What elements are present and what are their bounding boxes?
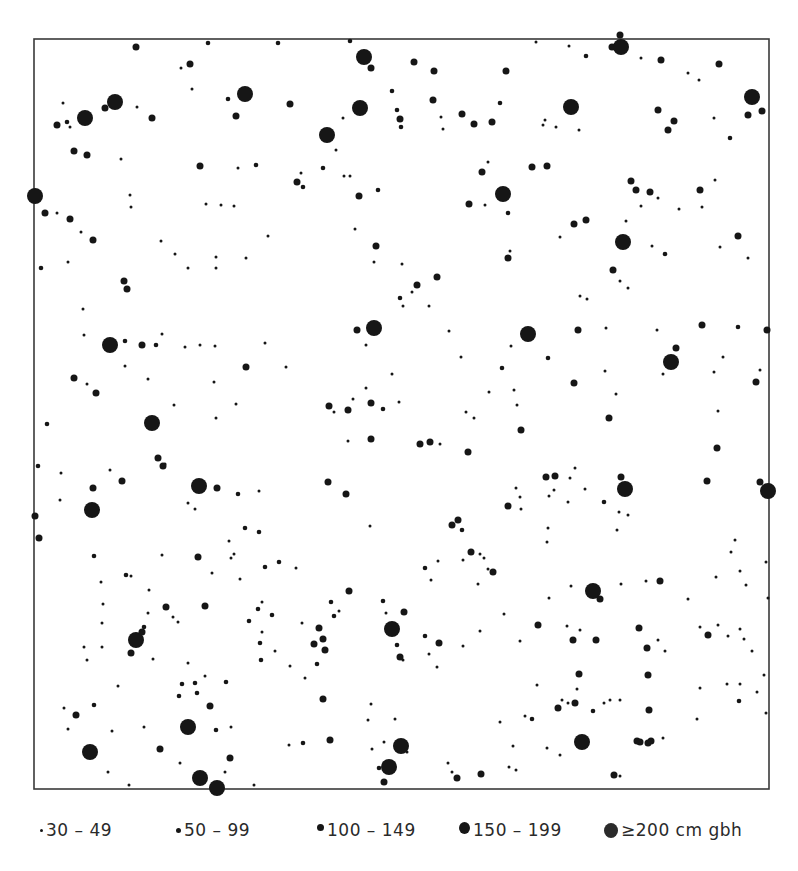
tree-point-class-1: [130, 575, 133, 578]
tree-point-class-2: [195, 691, 200, 696]
tree-point-class-3: [611, 772, 618, 779]
tree-point-class-5: [366, 320, 382, 336]
tree-point-class-1: [402, 305, 405, 308]
tree-point-class-1: [180, 67, 183, 70]
tree-point-class-2: [270, 613, 275, 618]
tree-point-class-1: [161, 333, 164, 336]
tree-point-class-5: [563, 99, 579, 115]
tree-point-class-3: [593, 637, 600, 644]
tree-point-class-1: [651, 245, 654, 248]
tree-point-class-1: [191, 88, 194, 91]
tree-point-class-1: [698, 79, 701, 82]
tree-point-class-3: [434, 274, 441, 281]
tree-point-class-1: [714, 179, 717, 182]
tree-point-class-1: [62, 102, 65, 105]
tree-point-class-2: [247, 619, 252, 624]
tree-point-class-1: [184, 346, 187, 349]
tree-point-class-1: [484, 204, 487, 207]
tree-point-class-3: [468, 549, 475, 556]
tree-point-class-1: [120, 158, 123, 161]
tree-point-class-3: [381, 779, 388, 786]
tree-point-class-1: [367, 719, 370, 722]
tree-point-class-1: [436, 666, 439, 669]
tree-point-class-1: [124, 365, 127, 368]
tree-point-class-1: [56, 212, 59, 215]
tree-point-class-3: [618, 474, 625, 481]
tree-point-class-2: [728, 136, 733, 141]
tree-point-class-1: [354, 228, 357, 231]
tree-point-class-3: [735, 233, 742, 240]
tree-point-class-5: [744, 89, 760, 105]
tree-point-class-3: [665, 127, 672, 134]
tree-point-class-1: [69, 126, 72, 129]
tree-point-class-1: [288, 744, 291, 747]
tree-point-class-1: [584, 488, 587, 491]
tree-point-class-1: [499, 721, 502, 724]
size-legend: 30 – 49 50 – 99 100 – 149 150 – 199 ≥200…: [0, 816, 798, 844]
tree-point-class-3: [644, 645, 651, 652]
tree-point-class-1: [578, 129, 581, 132]
tree-point-class-1: [213, 381, 216, 384]
tree-point-class-1: [86, 659, 89, 662]
tree-point-class-1: [569, 477, 572, 480]
tree-point-class-2: [254, 163, 259, 168]
tree-point-class-2: [399, 125, 404, 130]
tree-point-class-1: [536, 684, 539, 687]
tree-point-class-5: [352, 100, 368, 116]
tree-point-class-3: [368, 65, 375, 72]
tree-point-class-3: [704, 478, 711, 485]
tree-point-class-3: [90, 485, 97, 492]
tree-point-class-3: [648, 738, 655, 745]
tree-point-class-2: [381, 407, 386, 412]
tree-point-class-1: [479, 630, 482, 633]
tree-point-class-2: [236, 492, 241, 497]
tree-point-class-1: [567, 501, 570, 504]
tree-point-class-3: [745, 112, 752, 119]
tree-point-class-5: [102, 337, 118, 353]
tree-point-class-3: [121, 278, 128, 285]
legend-item-200-plus: ≥200 cm gbh: [604, 816, 742, 844]
tree-point-class-1: [60, 472, 63, 475]
tree-point-class-1: [586, 298, 589, 301]
legend-item-150-199: 150 – 199: [459, 816, 562, 844]
tree-point-class-3: [187, 61, 194, 68]
tree-point-class-2: [381, 599, 386, 604]
tree-point-class-1: [664, 650, 667, 653]
tree-point-class-3: [160, 463, 167, 470]
tree-point-class-1: [546, 747, 549, 750]
tree-point-class-1: [237, 167, 240, 170]
tree-point-class-1: [365, 387, 368, 390]
tree-point-class-1: [662, 373, 665, 376]
tree-point-class-1: [553, 489, 556, 492]
tree-point-class-2: [124, 573, 129, 578]
tree-point-class-1: [373, 261, 376, 264]
tree-point-class-1: [451, 771, 454, 774]
tree-point-class-3: [397, 654, 404, 661]
tree-point-class-1: [371, 748, 374, 751]
tree-point-class-2: [36, 464, 41, 469]
tree-point-class-1: [369, 525, 372, 528]
tree-point-class-3: [149, 115, 156, 122]
tree-point-class-1: [274, 650, 277, 653]
tree-point-class-1: [63, 707, 66, 710]
tree-point-class-1: [289, 665, 292, 668]
tree-point-class-2: [301, 185, 306, 190]
tree-point-class-2: [258, 641, 263, 646]
tree-point-class-3: [575, 327, 582, 334]
tree-point-class-1: [109, 469, 112, 472]
tree-point-class-1: [304, 677, 307, 680]
tree-point-class-1: [214, 345, 217, 348]
tree-point-class-3: [503, 68, 510, 75]
tree-point-class-1: [699, 626, 702, 629]
tree-point-class-1: [391, 373, 394, 376]
tree-point-class-2: [329, 600, 334, 605]
tree-point-class-2: [259, 658, 264, 663]
tree-point-class-3: [311, 641, 318, 648]
tree-point-class-1: [743, 638, 746, 641]
tree-point-class-1: [619, 280, 622, 283]
tree-point-class-1: [616, 529, 619, 532]
tree-point-class-5: [617, 481, 633, 497]
tree-point-class-1: [519, 496, 522, 499]
tree-point-class-3: [543, 474, 550, 481]
tree-point-class-1: [394, 718, 397, 721]
